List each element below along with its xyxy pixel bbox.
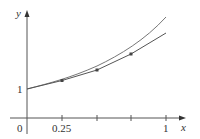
x-axis-arrow-icon <box>179 116 186 121</box>
exact-solution-curve <box>27 17 166 89</box>
euler-approximation-line <box>27 33 166 89</box>
x-tick-label-1: 1 <box>163 122 169 134</box>
y-tick-label-1: 1 <box>17 83 23 95</box>
euler-method-figure: y x 0 0.25 1 1 <box>0 0 200 139</box>
x-axis-label: x <box>180 121 186 133</box>
x-tick-label-0.25: 0.25 <box>52 122 72 134</box>
origin-label: 0 <box>17 122 23 134</box>
y-axis-arrow-icon <box>25 10 30 17</box>
y-axis-label: y <box>15 7 21 19</box>
